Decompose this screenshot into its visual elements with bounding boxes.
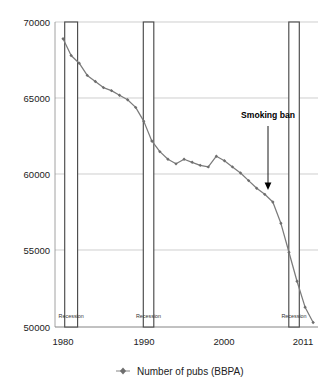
series-number-of-pubs: [61, 37, 314, 324]
smoking-ban-label: Smoking ban: [241, 110, 295, 120]
gridlines: [55, 22, 318, 327]
chart-container: 70000 65000 60000 55000 50000 Recession …: [0, 0, 326, 392]
y-tick-label: 55000: [24, 245, 50, 256]
y-tick-label: 50000: [24, 322, 50, 333]
recession-band-labels: Recession Recession Recession: [59, 313, 307, 319]
x-tick-label: 2011: [293, 336, 313, 347]
x-tick-label: 1980: [52, 336, 73, 347]
recession-bands: [65, 22, 300, 327]
series-data-point: [279, 222, 282, 225]
recession-label-2: Recession: [136, 313, 161, 319]
recession-label-3: Recession: [281, 313, 306, 319]
chart-legend: Number of pubs (BBPA): [116, 366, 244, 377]
series-data-point: [199, 164, 202, 167]
recession-label-1: Recession: [59, 313, 84, 319]
pub-numbers-line-chart: 70000 65000 60000 55000 50000 Recession …: [0, 0, 326, 392]
recession-band-1: [65, 22, 78, 327]
legend-diamond-marker-icon: [120, 368, 126, 375]
series-markers: [61, 37, 314, 324]
y-tick-label: 70000: [24, 17, 50, 28]
x-axis-tick-labels: 1980 1990 2000 2011: [52, 336, 313, 347]
smoking-ban-arrow-head-icon: [265, 183, 272, 191]
recession-band-2: [143, 22, 154, 327]
y-tick-label: 65000: [24, 93, 50, 104]
series-line-number-of-pubs: [63, 39, 313, 323]
y-axis-tick-labels: 70000 65000 60000 55000 50000: [24, 17, 50, 333]
legend-entry-label: Number of pubs (BBPA): [137, 366, 244, 377]
annotation-smoking-ban: Smoking ban: [241, 110, 295, 190]
series-data-point: [190, 161, 193, 164]
y-tick-label: 60000: [24, 169, 50, 180]
x-tick-label: 2000: [213, 336, 234, 347]
x-tick-label: 1990: [133, 336, 154, 347]
